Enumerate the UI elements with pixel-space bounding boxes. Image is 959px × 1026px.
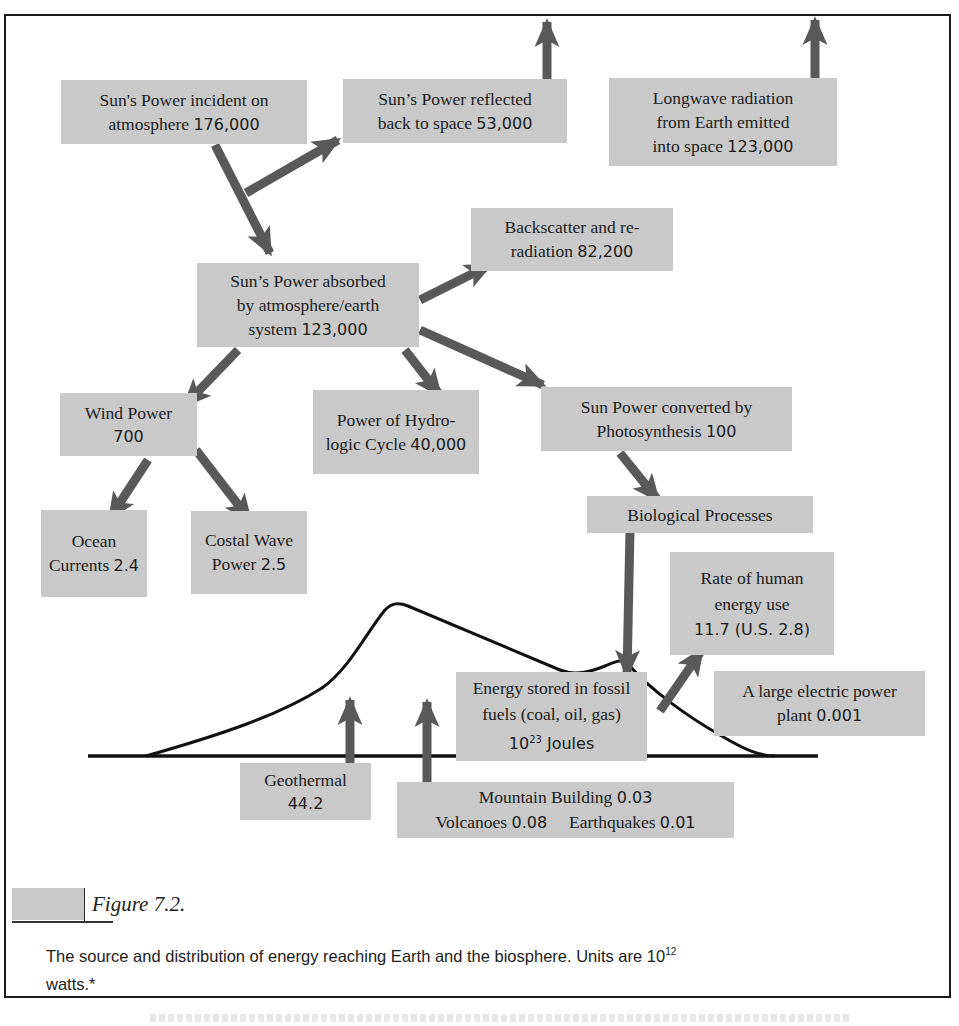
arrow-branch-to-reflected — [246, 140, 338, 193]
node-label: into space — [652, 136, 722, 156]
value-unit: Joules — [542, 735, 594, 754]
node-value: 0.08 — [511, 813, 547, 832]
arrow-photosynthesis-to-biological — [620, 453, 658, 500]
value-exponent: 23 — [529, 734, 542, 745]
caption-swatch — [12, 888, 84, 920]
node-label: Photosynthesis — [597, 421, 702, 441]
node-label: plant — [777, 705, 812, 725]
node-label: Sun’s Power reflected — [378, 87, 532, 111]
node-geothermal: Geothermal 44.2 — [240, 763, 371, 820]
node-label: system — [248, 319, 297, 339]
arrow-biological-to-fossil — [627, 530, 630, 675]
node-label: Sun's Power incident on — [100, 88, 269, 112]
node-label: by atmosphere/earth — [237, 293, 379, 317]
node-label: A large electric power — [742, 679, 897, 703]
node-label: Backscatter and re- — [504, 215, 639, 239]
node-human-energy-use: Rate of human energy use 11.7 (U.S. 2.8) — [670, 552, 834, 655]
node-photosynthesis: Sun Power converted by Photosynthesis 10… — [541, 387, 792, 451]
node-value: 1023 Joules — [509, 727, 594, 757]
value-base: 10 — [509, 735, 529, 754]
node-value: 2.4 — [114, 556, 139, 575]
caption-underline — [12, 921, 113, 923]
caption-exponent: 12 — [665, 946, 676, 957]
node-label: radiation — [511, 241, 573, 261]
node-label: Energy stored in fossil — [473, 675, 631, 701]
node-label: fuels (coal, oil, gas) — [482, 701, 621, 727]
caption-text: The source and distribution of energy re… — [46, 947, 665, 965]
node-label: back to space — [378, 113, 472, 133]
node-label: Rate of human — [700, 565, 803, 591]
node-value: 100 — [706, 422, 737, 441]
node-value: 53,000 — [476, 114, 532, 133]
node-sun-incident: Sun's Power incident on atmosphere 176,0… — [61, 80, 307, 144]
node-wind-power: Wind Power 700 — [60, 393, 197, 456]
node-label: from Earth emitted — [656, 110, 789, 134]
node-label: atmosphere — [108, 114, 189, 134]
node-value: 82,200 — [577, 242, 633, 261]
node-label: Costal Wave — [205, 528, 293, 552]
node-biological-processes: Biological Processes — [587, 496, 813, 533]
node-label: Mountain Building — [479, 787, 613, 807]
node-fossil-fuels: Energy stored in fossil fuels (coal, oil… — [456, 672, 647, 761]
node-value: 123,000 — [727, 137, 793, 156]
node-sun-absorbed: Sun’s Power absorbed by atmosphere/earth… — [197, 263, 419, 347]
node-value: 0.001 — [816, 706, 862, 725]
node-hydrologic-cycle: Power of Hydro- logic Cycle 40,000 — [313, 390, 479, 474]
node-label: Biological Processes — [627, 503, 772, 527]
node-label: Longwave radiation — [653, 86, 793, 110]
node-value: 123,000 — [301, 320, 367, 339]
node-label: Volcanoes — [436, 812, 508, 832]
node-value: 44.2 — [288, 792, 324, 816]
node-ocean-currents: Ocean Currents 2.4 — [41, 510, 147, 597]
node-label: Sun’s Power absorbed — [230, 269, 386, 293]
node-label: Earthquakes — [569, 812, 656, 832]
node-value: 40,000 — [410, 435, 466, 454]
node-tectonic: Mountain Building 0.03 Volcanoes 0.08 Ea… — [397, 782, 734, 838]
arrow-incident-to-absorbed — [215, 145, 270, 253]
node-label: Ocean — [72, 529, 117, 553]
node-label: energy use — [715, 591, 790, 617]
node-value: 11.7 (U.S. 2.8) — [694, 617, 810, 643]
node-label: Power of Hydro- — [337, 408, 456, 432]
node-longwave-radiation: Longwave radiation from Earth emitted in… — [609, 78, 837, 166]
node-power-plant: A large electric power plant 0.001 — [714, 671, 925, 736]
node-label: Wind Power — [85, 401, 172, 425]
node-backscatter: Backscatter and re- radiation 82,200 — [471, 208, 673, 271]
node-value: 700 — [113, 425, 144, 449]
node-label: Currents — [49, 555, 109, 575]
caption-divider — [84, 888, 85, 922]
cut-off-footer-text — [150, 1014, 850, 1022]
node-value: 2.5 — [261, 555, 286, 574]
node-label: Geothermal — [264, 768, 347, 792]
arrow-fossil-to-human — [660, 650, 702, 711]
node-label: Power — [212, 554, 257, 574]
node-value: 176,000 — [193, 115, 259, 134]
figure-caption: The source and distribution of energy re… — [46, 938, 906, 998]
node-value: 0.03 — [617, 788, 653, 807]
arrow-absorbed-to-hydro — [405, 350, 440, 395]
node-sun-reflected: Sun’s Power reflected back to space 53,0… — [343, 79, 567, 143]
figure-label: Figure 7.2. — [92, 892, 185, 917]
arrow-wind-to-coastal — [196, 450, 250, 520]
node-label: logic Cycle — [326, 434, 406, 454]
node-value: 0.01 — [660, 813, 696, 832]
caption-text-end: watts.* — [46, 975, 96, 993]
arrow-absorbed-to-photosynthesis — [420, 330, 543, 385]
node-label: Sun Power converted by — [581, 395, 753, 419]
node-coastal-wave: Costal Wave Power 2.5 — [191, 511, 307, 594]
